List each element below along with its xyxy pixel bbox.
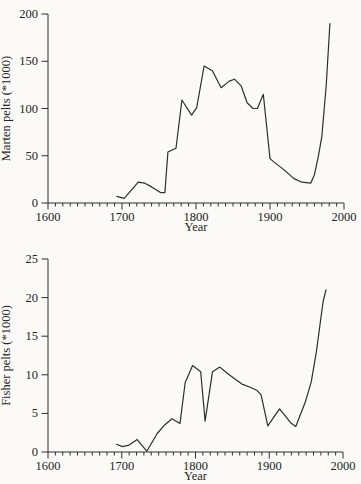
- y-tick-label: 20: [26, 291, 39, 305]
- y-tick-label: 100: [19, 102, 38, 116]
- y-tick-label: 150: [19, 54, 38, 68]
- y-axis-title: Fisher pelts (*1000): [0, 305, 13, 406]
- y-tick-label: 25: [26, 252, 39, 266]
- y-axis-title: Marten pelts (*1000): [0, 56, 13, 162]
- x-tick-label: 1600: [36, 459, 61, 473]
- x-tick-label: 2000: [332, 210, 357, 224]
- y-tick-label: 50: [26, 149, 39, 163]
- x-axis-title: Year: [184, 469, 208, 483]
- y-tick-label: 5: [32, 406, 38, 420]
- x-tick-label: 1900: [257, 459, 282, 473]
- x-axis-title: Year: [184, 220, 208, 234]
- x-tick-label: 1600: [36, 210, 61, 224]
- x-tick-label: 2000: [331, 459, 356, 473]
- marten-plot: 16001700180019002000050100150200YearMart…: [0, 0, 361, 242]
- x-tick-label: 1900: [258, 210, 283, 224]
- fisher-plot: 160017001800190020000510152025YearFisher…: [0, 242, 361, 484]
- fisher-pelts-chart: 160017001800190020000510152025YearFisher…: [0, 242, 361, 484]
- x-tick-label: 1700: [110, 210, 135, 224]
- data-line-marten: [117, 24, 330, 199]
- marten-pelts-chart: 16001700180019002000050100150200YearMart…: [0, 0, 361, 242]
- x-tick-label: 1700: [109, 459, 134, 473]
- pelt-harvest-figure: 16001700180019002000050100150200YearMart…: [0, 0, 361, 484]
- y-tick-label: 0: [32, 445, 38, 459]
- y-tick-label: 10: [26, 368, 39, 382]
- y-tick-label: 200: [19, 7, 38, 21]
- y-tick-label: 15: [26, 329, 39, 343]
- y-tick-label: 0: [32, 196, 38, 210]
- data-line-fisher: [117, 290, 326, 451]
